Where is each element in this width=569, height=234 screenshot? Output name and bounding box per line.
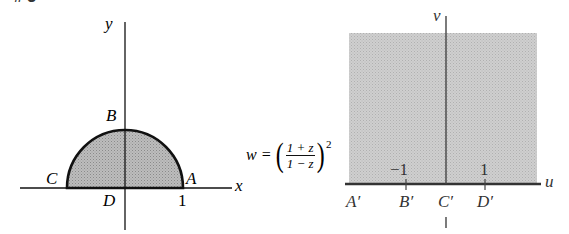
point-B-label: B (106, 106, 116, 126)
u-axis-label: u (545, 172, 554, 192)
x-axis-label: x (235, 176, 243, 196)
right-paren: ) (316, 138, 324, 172)
point-D-label: D (103, 191, 115, 211)
point-C-prime-label: C′ (438, 192, 453, 212)
point-A-label: A (186, 169, 196, 189)
tick-1-label-w: 1 (480, 160, 489, 180)
v-axis-label: v (433, 6, 441, 26)
formula-lhs: w = (246, 146, 271, 164)
figure-label-fragment: # 3 (14, 0, 36, 6)
point-C-label: C (46, 169, 57, 189)
z-plane (20, 22, 232, 230)
point-A-prime-label: A′ (346, 192, 360, 212)
numerator: 1 + z (286, 140, 315, 156)
tick-neg1-label: −1 (390, 160, 408, 180)
point-D-prime-label: D′ (477, 192, 493, 212)
left-paren: ( (276, 138, 284, 172)
y-axis-label: y (105, 14, 113, 34)
fraction: 1 + z 1 − z (286, 140, 315, 171)
upper-half-plane-region (349, 33, 537, 184)
tick-1-label: 1 (178, 191, 187, 211)
denominator: 1 − z (287, 156, 314, 171)
mapping-formula: w = ( 1 + z 1 − z ) 2 (246, 138, 331, 172)
point-B-prime-label: B′ (399, 192, 413, 212)
exponent: 2 (326, 138, 332, 150)
